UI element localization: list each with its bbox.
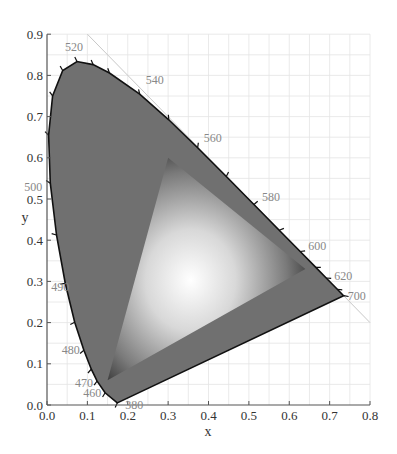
x-tick-label: 0.1 — [79, 408, 95, 423]
chromaticity-chart: 0.00.10.20.30.40.50.60.70.8 0.00.10.20.3… — [0, 0, 397, 454]
y-tick-label: 0.9 — [27, 27, 43, 42]
wavelength-label-500: 500 — [24, 180, 42, 194]
y-tick-label: 0.3 — [27, 274, 43, 289]
wavelength-tick — [80, 350, 84, 353]
wavelength-label-520: 520 — [65, 40, 83, 54]
wavelength-tick — [337, 289, 342, 290]
wavelength-tick — [279, 228, 284, 230]
wavelength-label-540: 540 — [146, 73, 164, 87]
wavelength-tick — [198, 143, 199, 148]
wavelength-label-490: 490 — [51, 280, 69, 294]
x-tick-label: 0.5 — [241, 408, 257, 423]
wavelength-label-380: 380 — [125, 398, 143, 412]
wavelength-label-560: 560 — [204, 131, 222, 145]
wavelength-tick — [300, 251, 305, 252]
wavelength-label-700: 700 — [348, 289, 366, 303]
y-tick-label: 0.0 — [27, 398, 43, 413]
wavelength-tick — [50, 92, 53, 96]
y-tick-label: 0.7 — [27, 109, 44, 124]
wavelength-label-460: 460 — [83, 386, 101, 400]
x-tick-label: 0.7 — [322, 408, 339, 423]
wavelength-tick — [75, 57, 77, 61]
y-tick-label: 0.4 — [27, 233, 44, 248]
x-axis-ticks: 0.00.10.20.30.40.50.60.70.8 — [39, 401, 378, 423]
wavelength-label-600: 600 — [308, 239, 326, 253]
wavelength-tick — [103, 393, 106, 397]
y-tick-label: 0.8 — [27, 68, 43, 83]
y-tick-label: 0.6 — [27, 150, 44, 165]
x-axis-title: x — [205, 424, 212, 439]
y-axis-title: y — [22, 210, 29, 225]
wavelength-tick — [254, 201, 258, 204]
wavelength-label-580: 580 — [262, 190, 280, 204]
wavelength-tick — [88, 369, 91, 373]
x-tick-label: 0.6 — [281, 408, 298, 423]
wavelength-label-480: 480 — [62, 343, 80, 357]
x-tick-label: 0.3 — [160, 408, 176, 423]
wavelength-tick — [60, 66, 63, 70]
wavelength-tick — [226, 172, 228, 176]
y-tick-label: 0.2 — [27, 315, 43, 330]
x-tick-label: 0.4 — [200, 408, 217, 423]
x-tick-label: 0.8 — [362, 408, 378, 423]
wavelength-label-620: 620 — [334, 269, 352, 283]
y-tick-label: 0.1 — [27, 356, 43, 371]
